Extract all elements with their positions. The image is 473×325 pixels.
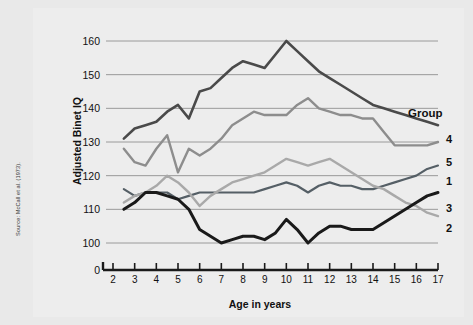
x-axis-tick-label: 12 [324, 274, 336, 285]
x-axis-tick-label: 7 [219, 274, 225, 285]
x-axis-tick-label: 3 [132, 274, 138, 285]
x-axis-tick-label: 10 [281, 274, 293, 285]
x-axis-tick-label: 17 [432, 274, 444, 285]
line-chart: 1001101201301401501600 23456789101112131… [0, 0, 473, 325]
figure-container: Source: McCall et al. (1973). Adjusted B… [0, 0, 473, 325]
x-axis-tick-label: 6 [197, 274, 203, 285]
legend-label-4: 4 [446, 133, 453, 145]
legend-label-2: 2 [446, 222, 452, 234]
x-axis-tick-label: 8 [240, 274, 246, 285]
x-axis [103, 262, 438, 270]
x-axis-tick-label: 9 [262, 274, 268, 285]
legend-label-5: 5 [446, 156, 452, 168]
series-line-2 [124, 159, 438, 216]
legend-label-1: 1 [446, 175, 452, 187]
y-axis-tick-label: 150 [82, 69, 100, 81]
x-axis-tick-labels: 234567891011121314151617 [110, 274, 444, 285]
x-axis-tick-label: 2 [110, 274, 116, 285]
y-axis-tick-labels: 1001101201301401501600 [82, 35, 100, 276]
legend-label-3: 3 [446, 202, 452, 214]
y-axis-zero-label: 0 [94, 264, 100, 276]
x-axis-tick-label: 13 [346, 274, 358, 285]
series-line-3 [124, 193, 438, 244]
y-axis-tick-label: 160 [82, 35, 100, 47]
y-axis-tick-label: 100 [82, 237, 100, 249]
y-axis-tick-label: 110 [83, 203, 100, 215]
y-axis-tick-label: 120 [82, 170, 100, 182]
x-axis-tick-label: 5 [175, 274, 181, 285]
series-line-4 [124, 41, 438, 139]
gridlines [106, 41, 438, 243]
y-axis-tick-label: 140 [82, 102, 100, 114]
y-axis-tick-label: 130 [82, 136, 100, 148]
x-axis-tick-label: 11 [303, 274, 314, 285]
x-axis-tick-label: 15 [389, 274, 401, 285]
legend-header: Group [408, 107, 443, 119]
x-axis-tick-label: 14 [367, 274, 379, 285]
x-axis-tick-label: 16 [411, 274, 423, 285]
x-axis-tick-label: 4 [154, 274, 160, 285]
